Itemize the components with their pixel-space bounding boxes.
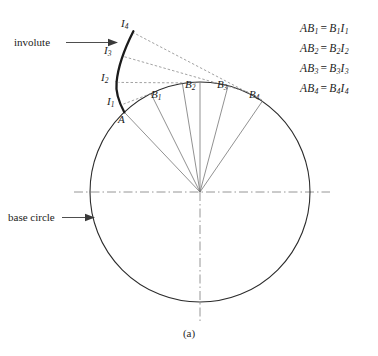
equation-2: AB2=B2I2 (300, 42, 349, 56)
point-label-B3: B3 (217, 79, 227, 91)
radius-line-to-B1 (151, 94, 200, 192)
point-label-I3: I3 (104, 45, 111, 57)
tangent-line-B1-I1 (122, 94, 151, 105)
involute-annotation-label: involute (14, 37, 50, 48)
point-label-B1: B1 (151, 89, 161, 101)
base-circle-annotation-label: base circle (8, 212, 55, 223)
point-label-A: A (118, 114, 125, 125)
equation-3: AB3=B3I3 (300, 62, 349, 76)
equation-1: AB1=B1I1 (300, 22, 349, 36)
point-label-I2: I2 (101, 72, 108, 84)
equation-4: AB4=B4I4 (300, 82, 349, 96)
point-label-I1: I1 (107, 96, 114, 108)
point-label-B2: B2 (185, 79, 195, 91)
involute-curve (116, 31, 133, 112)
point-label-B4: B4 (249, 89, 259, 101)
radius-line-to-B4 (200, 85, 228, 192)
point-label-I4: I4 (121, 18, 128, 30)
figure-caption: (a) (0, 327, 378, 339)
radius-line-to-tangent-point (200, 101, 262, 192)
